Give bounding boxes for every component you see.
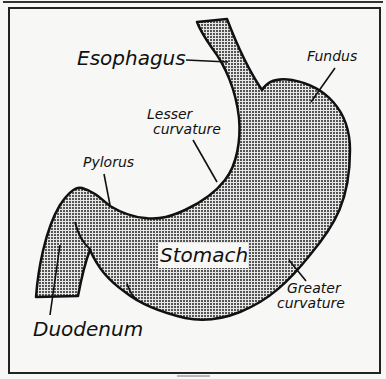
label-esophagus: Esophagus — [77, 48, 186, 68]
label-fundus: Fundus — [307, 49, 357, 63]
label-greater-curvature-2: curvature — [277, 296, 345, 310]
label-stomach: Stomach — [160, 245, 248, 265]
label-greater-curvature-1: Greater — [287, 281, 341, 295]
label-pylorus: Pylorus — [83, 155, 134, 169]
label-lesser-curvature-2: curvature — [153, 122, 221, 136]
lesser-curvature-pointer — [193, 140, 217, 182]
label-lesser-curvature-1: Lesser — [147, 107, 192, 121]
label-duodenum: Duodenum — [33, 319, 143, 339]
